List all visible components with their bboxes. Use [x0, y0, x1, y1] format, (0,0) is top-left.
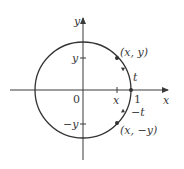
one-label: 1 [134, 93, 141, 106]
neg-y-tick-label: −y [63, 118, 79, 131]
point-lower-label: (x, −y) [120, 124, 157, 137]
point-lower [115, 121, 119, 125]
point-upper [115, 56, 119, 60]
y-tick-label: y [71, 52, 79, 65]
lower-arc-label: −t [131, 106, 145, 119]
x-tick-label: x [113, 94, 120, 107]
point-upper-label: (x, y) [120, 46, 148, 59]
point-one [129, 88, 133, 92]
upper-arc-label: t [133, 71, 138, 84]
unit-circle-diagram: y x 0 x 1 y −y (x, y) (x, −y) t −t [0, 0, 184, 169]
y-axis-label: y [73, 15, 81, 28]
origin-label: 0 [73, 93, 80, 106]
x-axis-label: x [163, 94, 170, 107]
